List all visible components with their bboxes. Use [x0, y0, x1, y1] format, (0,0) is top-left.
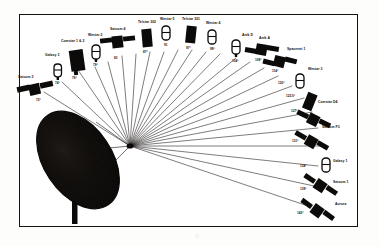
- satellite-drum-icon: [302, 92, 318, 112]
- degree-label: 120°: [278, 82, 284, 85]
- satellite-name-label: Westar 2: [88, 34, 102, 37]
- satellite-drum-icon: [69, 49, 86, 75]
- degree-label: 134°: [300, 165, 306, 168]
- satellite-boxwing-icon: [300, 198, 335, 221]
- degree-label: 104°: [232, 60, 238, 63]
- sight-line: [130, 76, 278, 146]
- satellite-boxwing-icon: [17, 81, 54, 96]
- satellite-cylinder-icon: [296, 74, 304, 88]
- satellite-name-label: Westar 5: [160, 18, 174, 21]
- satellite-cylinder-icon: [232, 40, 240, 57]
- satellite-name-label: Westar 4: [206, 22, 220, 25]
- satellite-boxwing-icon: [100, 35, 135, 48]
- satellite-name-label: Comstar D4: [318, 101, 338, 104]
- satellite-name-label: Galaxy 1: [333, 160, 347, 163]
- sight-line: [130, 146, 314, 186]
- satellite-arc-diagram: [0, 0, 379, 246]
- sight-line: [130, 146, 308, 206]
- degree-label: 99°: [210, 48, 215, 51]
- satellite-drum-icon: [141, 29, 153, 48]
- sight-line: [130, 112, 312, 146]
- satellite-boxwing-icon: [262, 55, 297, 68]
- degree-label: 72°: [36, 99, 41, 102]
- satellite-name-label: Comstar 1 & 2: [61, 40, 84, 43]
- satellite-name-label: Satcom 4: [110, 28, 125, 31]
- degree-label: 83: [114, 57, 117, 60]
- degree-label: 122.5°: [286, 95, 295, 98]
- feed-horn: [127, 143, 134, 148]
- satellite-name-label: Anik A: [259, 37, 270, 40]
- satellite-name-label: Westar 3: [308, 68, 322, 71]
- sight-line: [130, 128, 318, 146]
- degree-label: 91: [164, 44, 167, 47]
- degree-label: 87°: [143, 51, 148, 54]
- sight-line: [130, 54, 220, 146]
- satellite-boxwing-icon: [294, 130, 329, 150]
- parabolic-dish-antenna: [20, 96, 137, 224]
- satellite-name-label: Spacenet 1: [287, 48, 305, 51]
- satellite-cylinder-icon: [208, 30, 216, 44]
- satellite-name-label: Telstar 302: [138, 21, 156, 24]
- satellite-name-label: Telstar 301: [182, 18, 200, 21]
- degree-label: 74°: [55, 82, 60, 85]
- degree-label: 143°: [297, 212, 303, 215]
- figure-page: Satcom 3 72° Galaxy 3 74° Comstar 1 & 2 …: [0, 0, 379, 246]
- sight-line: [130, 68, 264, 146]
- satellite-name-label: Galaxy 3: [45, 54, 59, 57]
- satellite-cylinder-icon: [92, 45, 100, 62]
- degree-label: 79°: [93, 64, 98, 67]
- satellite-cylinder-icon: [322, 158, 330, 172]
- satellite-name-label: Satcom 3: [18, 76, 33, 79]
- degree-label: 127°: [291, 110, 297, 113]
- degree-label: 97°: [186, 47, 191, 50]
- satellite-name-label: Satcom 1: [333, 181, 348, 184]
- sight-line: [130, 146, 318, 166]
- satellite-drum-icon: [185, 26, 197, 44]
- sight-line: [130, 50, 178, 146]
- satellite-boxwing-icon: [303, 173, 338, 196]
- satellite-name-label: Anik D: [242, 34, 253, 37]
- satellite-boxwing-icon: [245, 43, 280, 56]
- degree-label: 131°: [292, 140, 298, 143]
- satellite-cylinder-icon: [162, 26, 170, 40]
- satellite-name-label: Aurora: [335, 203, 346, 206]
- degree-label: 109°: [255, 59, 261, 62]
- degree-label: 139°: [300, 188, 306, 191]
- degree-label: 114°: [272, 70, 278, 73]
- satellite-name-label: Satcom F3: [322, 126, 340, 129]
- sight-line: [122, 56, 130, 146]
- degree-label: 76°: [72, 77, 77, 80]
- sight-line: [130, 62, 250, 146]
- satellite-cylinder-icon: [54, 64, 62, 80]
